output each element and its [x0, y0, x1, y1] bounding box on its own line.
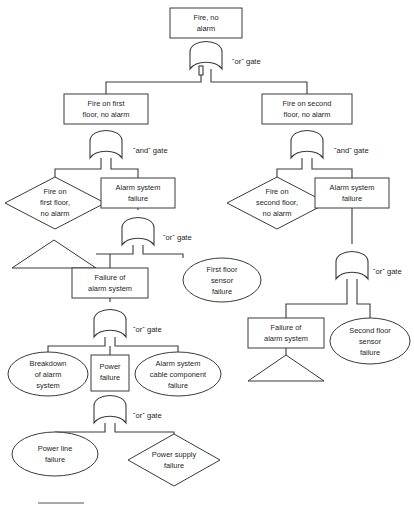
node-label-line: floor, no alarm — [83, 110, 130, 119]
node-label-line: of alarm — [35, 370, 62, 379]
node-label-line: failure — [168, 381, 188, 390]
node-label-line: failure — [164, 461, 184, 470]
node-label-line: sensor — [359, 337, 382, 346]
gate-first-and: ˇandˇ gate — [90, 131, 168, 159]
fault-tree-diagram: ˇorˇ gate ˇandˇ gate ˇandˇ gate ˇorˇ gat… — [0, 0, 414, 512]
gate-second-and: ˇandˇ gate — [291, 131, 369, 159]
gate-top: ˇorˇ gate — [190, 42, 261, 76]
node-fire-no-alarm[interactable]: Fire, no alarm — [170, 8, 242, 38]
node-fire-second-floor-no-alarm[interactable]: Fire on second floor, no alarm — [262, 94, 352, 124]
node-label-line: alarm — [197, 24, 215, 33]
node-failure-of-alarm-system-right[interactable]: Failure of alarm system — [248, 318, 324, 348]
node-diamond-fire-second-floor[interactable]: Fire on second floor, no alarm — [227, 177, 327, 229]
node-alarm-cable-component-failure[interactable]: Alarm system cable component failure — [135, 352, 221, 396]
node-label-line: floor, no alarm — [284, 110, 331, 119]
node-label-line: no alarm — [41, 209, 70, 218]
node-label-line: alarm system — [264, 334, 308, 343]
gate-alarm-or-caption: ˇorˇ gate — [133, 325, 162, 334]
node-label-line: alarm system — [88, 284, 132, 293]
node-label-line: Fire on — [265, 187, 288, 196]
node-label-line: First floor — [207, 265, 238, 274]
node-alarm-system-failure-right[interactable]: Alarm system failure — [315, 178, 389, 208]
node-power-supply-failure[interactable]: Power supply failure — [128, 434, 220, 486]
node-diamond-fire-first-floor[interactable]: Fire on first floor, no alarm — [5, 177, 105, 229]
node-fire-first-floor-no-alarm[interactable]: Fire on first floor, no alarm — [64, 94, 148, 124]
gate-left-or-caption: ˇorˇ gate — [163, 233, 192, 242]
node-label-line: Power — [100, 362, 121, 371]
node-failure-of-alarm-system-left[interactable]: Failure of alarm system — [72, 268, 148, 298]
gate-power-or-caption: ˇorˇ gate — [133, 411, 162, 420]
node-label-line: Breakdown — [30, 359, 67, 368]
node-label-line: sensor — [211, 276, 234, 285]
node-label-line: Second floor — [349, 326, 391, 335]
node-label-line: Alarm system — [330, 183, 375, 192]
gate-power-or: ˇorˇ gate — [94, 396, 162, 424]
node-label-line: Alarm system — [156, 359, 201, 368]
node-label-line: failure — [45, 455, 65, 464]
node-label-line: Alarm system — [116, 183, 161, 192]
node-first-floor-sensor-failure[interactable]: First floor sensor failure — [183, 258, 261, 302]
node-label-line: failure — [100, 373, 120, 382]
node-label-line: Power line — [38, 444, 73, 453]
node-power-failure[interactable]: Power failure — [91, 355, 129, 391]
node-label-line: no alarm — [263, 209, 292, 218]
node-label-line: second floor, — [256, 198, 298, 207]
gate-second-and-caption: ˇandˇ gate — [334, 146, 369, 155]
node-label-line: Failure of — [95, 273, 127, 282]
transfer-triangle-left-icon[interactable] — [12, 240, 96, 268]
gate-alarm-or: ˇorˇ gate — [94, 310, 162, 338]
node-label-line: system — [36, 381, 59, 390]
gate-left-or: ˇorˇ gate — [122, 218, 192, 246]
node-label-line: failure — [342, 194, 362, 203]
node-alarm-system-failure-left[interactable]: Alarm system failure — [101, 178, 175, 208]
gate-right-or-caption: ˇorˇ gate — [373, 267, 402, 276]
node-label-line: Power supply — [152, 450, 197, 459]
node-second-floor-sensor-failure[interactable]: Second floor sensor failure — [330, 318, 410, 364]
node-label-line: Fire on second — [283, 99, 332, 108]
fault-tree-canvas: ˇorˇ gate ˇandˇ gate ˇandˇ gate ˇorˇ gat… — [0, 0, 414, 512]
node-breakdown-of-alarm-system[interactable]: Breakdown of alarm system — [8, 352, 88, 396]
node-label-line: cable component — [150, 370, 206, 379]
node-label-line: failure — [360, 348, 380, 357]
gate-top-caption: ˇorˇ gate — [232, 57, 261, 66]
node-label-line: Failure of — [271, 323, 303, 332]
node-label-line: Fire, no — [193, 13, 218, 22]
node-label-line: first floor, — [40, 198, 70, 207]
node-label-line: Fire on first — [88, 99, 125, 108]
node-label-line: failure — [212, 287, 232, 296]
gate-first-and-caption: ˇandˇ gate — [133, 146, 168, 155]
node-label-line: Fire on — [43, 187, 66, 196]
node-label-line: failure — [128, 194, 148, 203]
node-power-line-failure[interactable]: Power line failure — [12, 432, 98, 476]
gate-right-or: ˇorˇ gate — [336, 252, 402, 280]
transfer-triangle-right-icon[interactable] — [248, 355, 324, 381]
